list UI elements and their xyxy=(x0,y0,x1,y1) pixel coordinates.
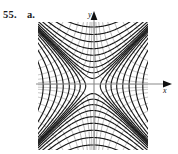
plot-canvas xyxy=(38,22,148,150)
y-axis-label: y xyxy=(88,10,92,19)
curve xyxy=(44,138,143,150)
orthogonal-trajectories-plot xyxy=(38,22,148,150)
primary-curve-group xyxy=(38,22,148,150)
problem-number: 55. xyxy=(3,9,17,20)
curve xyxy=(44,22,143,34)
figure-panel: 55. a. y x xyxy=(0,0,178,154)
x-axis-label: x xyxy=(163,86,167,95)
problem-part-label: a. xyxy=(27,9,35,20)
